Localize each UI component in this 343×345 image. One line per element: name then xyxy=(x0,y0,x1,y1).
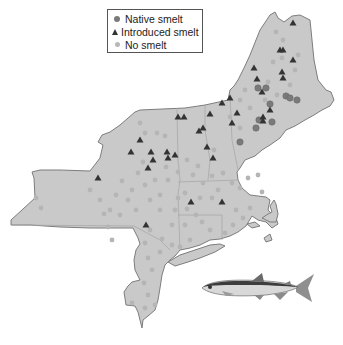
fish-pelvic-fin xyxy=(254,295,264,300)
no-smelt-point xyxy=(185,207,190,212)
no-smelt-point xyxy=(153,303,158,308)
legend-item-none: No smelt xyxy=(112,38,198,51)
fish-dorsal-fin xyxy=(252,273,264,282)
no-smelt-point xyxy=(34,196,39,201)
no-smelt-point xyxy=(158,250,163,255)
no-smelt-point xyxy=(146,256,151,261)
no-smelt-point xyxy=(238,98,243,103)
no-smelt-point xyxy=(143,306,148,311)
no-smelt-point xyxy=(158,208,163,213)
no-smelt-point xyxy=(176,196,181,201)
no-smelt-point xyxy=(288,83,293,88)
no-smelt-point xyxy=(176,170,181,175)
no-smelt-point xyxy=(118,213,123,218)
native-smelt-point xyxy=(267,101,273,107)
no-smelt-point xyxy=(256,173,261,178)
legend-item-native: Native smelt xyxy=(112,12,198,25)
no-smelt-point xyxy=(153,178,158,183)
no-smelt-point xyxy=(141,160,146,165)
no-smelt-point xyxy=(271,60,276,65)
no-smelt-point xyxy=(178,245,183,250)
no-smelt-point xyxy=(158,193,163,198)
no-smelt-point xyxy=(163,134,168,139)
no-smelt-point xyxy=(130,301,135,306)
no-smelt-point xyxy=(248,206,253,211)
native-smelt-point xyxy=(269,119,275,125)
native-smelt-point xyxy=(263,85,269,91)
no-smelt-point xyxy=(293,68,298,73)
no-smelt-circle-icon xyxy=(112,42,122,47)
no-smelt-point xyxy=(146,293,151,298)
no-smelt-point xyxy=(130,188,135,193)
no-smelt-point xyxy=(246,176,251,181)
no-smelt-point xyxy=(266,80,271,85)
no-smelt-point xyxy=(98,198,103,203)
no-smelt-point xyxy=(234,208,239,213)
no-smelt-point xyxy=(260,190,265,195)
no-smelt-point xyxy=(212,148,217,153)
no-smelt-point xyxy=(201,181,206,186)
introduced-triangle-icon xyxy=(112,29,118,35)
no-smelt-point xyxy=(148,198,153,203)
no-smelt-point xyxy=(280,56,285,61)
no-smelt-point xyxy=(196,164,201,169)
no-smelt-point xyxy=(185,158,190,163)
no-smelt-point xyxy=(194,213,199,218)
no-smelt-point xyxy=(241,216,246,221)
legend: Native smelt Introduced smelt No smelt xyxy=(107,9,203,53)
no-smelt-point xyxy=(143,131,148,136)
no-smelt-point xyxy=(143,183,148,188)
nantucket xyxy=(264,234,272,242)
no-smelt-point xyxy=(114,193,119,198)
native-smelt-point xyxy=(287,95,293,101)
no-smelt-point xyxy=(142,281,147,286)
no-smelt-point xyxy=(134,208,139,213)
no-smelt-point xyxy=(183,223,188,228)
no-smelt-point xyxy=(166,178,171,183)
no-smelt-point xyxy=(126,198,131,203)
no-smelt-point xyxy=(120,179,125,184)
no-smelt-point xyxy=(160,237,165,242)
no-smelt-point xyxy=(238,126,243,131)
no-smelt-point xyxy=(243,88,248,93)
fish-eye xyxy=(208,285,212,289)
no-smelt-point xyxy=(231,223,236,228)
no-smelt-point xyxy=(170,243,175,248)
no-smelt-point xyxy=(275,93,280,98)
no-smelt-point xyxy=(230,181,235,186)
no-smelt-point xyxy=(191,173,196,178)
no-smelt-point xyxy=(216,188,221,193)
no-smelt-point xyxy=(228,115,233,120)
no-smelt-point xyxy=(208,228,213,233)
no-smelt-point xyxy=(223,231,228,236)
no-smelt-point xyxy=(39,206,44,211)
no-smelt-point xyxy=(102,212,107,217)
no-smelt-point xyxy=(296,53,301,58)
no-smelt-point xyxy=(274,30,279,35)
no-smelt-point xyxy=(248,106,253,111)
land-outline xyxy=(11,12,334,328)
no-smelt-point xyxy=(200,220,205,225)
no-smelt-point xyxy=(143,241,148,246)
no-smelt-point xyxy=(221,171,226,176)
no-smelt-point xyxy=(198,196,203,201)
no-smelt-point xyxy=(210,174,215,179)
no-smelt-point xyxy=(155,131,160,136)
no-smelt-point xyxy=(170,223,175,228)
no-smelt-point xyxy=(183,191,188,196)
no-smelt-point xyxy=(210,196,215,201)
native-smelt-point xyxy=(253,125,259,131)
no-smelt-point xyxy=(138,121,143,126)
no-smelt-point xyxy=(108,208,113,213)
no-smelt-point xyxy=(148,228,153,233)
no-smelt-point xyxy=(150,268,155,273)
land-region xyxy=(11,12,334,328)
no-smelt-point xyxy=(188,238,193,243)
native-smelt-point xyxy=(255,85,261,91)
no-smelt-point xyxy=(110,238,115,243)
no-smelt-point xyxy=(238,186,243,191)
legend-label: Native smelt xyxy=(125,13,183,25)
legend-label: Introduced smelt xyxy=(121,26,199,38)
no-smelt-point xyxy=(173,208,178,213)
legend-label: No smelt xyxy=(125,39,166,51)
